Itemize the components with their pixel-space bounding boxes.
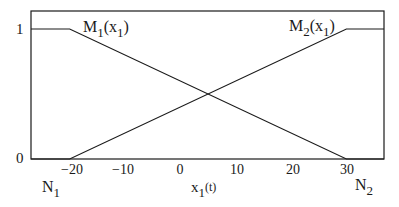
n1-annotation: N1 (42, 179, 60, 195)
n1-main: N (42, 178, 54, 195)
y-tick-1: 1 (16, 22, 24, 37)
m2-label-sub: 2 (303, 24, 310, 39)
m1-label-close: ) (124, 18, 129, 35)
m2-label-arg: (x (310, 17, 323, 34)
x-tick-minus10: −10 (112, 163, 134, 177)
x-axis-label-main: x (191, 179, 199, 195)
x-tick-0: 0 (177, 163, 184, 177)
m1-label-arg: (x (104, 18, 117, 35)
membership-function-chart: 1 0 −20 −10 0 10 20 30 x1(t) N1 N2 M1(x1… (0, 0, 399, 207)
n2-sub: 2 (367, 183, 374, 198)
m2-curve-label: M2(x1) (289, 18, 335, 34)
x-tick-minus20: −20 (61, 163, 83, 177)
y-tick-0: 0 (16, 151, 24, 166)
x-tick-10: 10 (230, 163, 244, 177)
x-axis-label-arg: (t) (205, 180, 216, 194)
m1-label-sub: 1 (97, 25, 104, 40)
n2-main: N (355, 176, 367, 193)
m2-label-close: ) (330, 17, 335, 34)
m2-membership-line (31, 29, 384, 159)
x-tick-20: 20 (286, 163, 300, 177)
m2-label-main: M (289, 17, 303, 34)
x-axis-label: x1(t) (191, 180, 216, 195)
m1-label-arg-sub: 1 (117, 25, 124, 40)
x-tick-30: 30 (340, 163, 354, 177)
m1-curve-label: M1(x1) (83, 19, 129, 35)
n2-annotation: N2 (355, 177, 373, 193)
n1-sub: 1 (54, 185, 61, 200)
m2-label-arg-sub: 1 (323, 24, 330, 39)
m1-label-main: M (83, 18, 97, 35)
